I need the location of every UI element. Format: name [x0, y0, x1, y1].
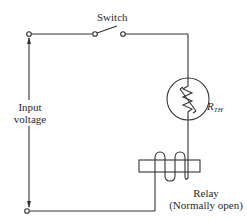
thermistor-diagonal-hook2: [193, 111, 196, 113]
thermistor-label-sub: TH: [214, 106, 223, 114]
input-voltage-label: Input voltage: [13, 101, 47, 125]
arrowhead-up-icon: [27, 37, 31, 44]
thermistor-label-main: R: [207, 100, 214, 112]
arrowhead-down-icon: [27, 201, 31, 208]
relay-label: Relay (Normally open): [165, 187, 247, 211]
switch-blade: [97, 26, 117, 33]
input-voltage-label-line1: Input: [13, 101, 47, 113]
thermistor-label: RTH: [207, 100, 223, 116]
switch-terminal-left: [93, 32, 98, 37]
input-terminal-bottom: [25, 209, 30, 214]
input-terminal-top: [27, 32, 32, 37]
switch-label: Switch: [97, 11, 128, 23]
input-voltage-label-line2: voltage: [13, 113, 47, 125]
relay-label-line1: Relay: [165, 187, 247, 199]
switch-terminal-right: [121, 32, 126, 37]
relay-label-line2: (Normally open): [165, 199, 247, 211]
relay-core: [139, 160, 200, 172]
